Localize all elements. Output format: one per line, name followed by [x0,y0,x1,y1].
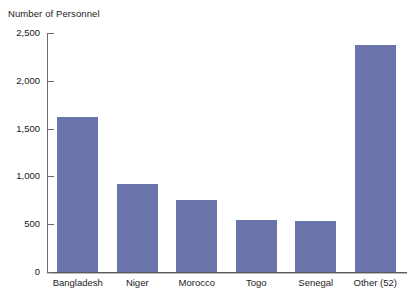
x-axis-category-label: Other (52) [346,277,406,288]
y-axis-tick [47,224,54,225]
y-axis-tick-label: 2,000 [16,76,40,86]
x-axis-category-label: Senegal [286,277,346,288]
bar [117,184,158,272]
y-axis-tick-label: 1,500 [16,124,40,134]
bar-chart-figure: Number of Personnel 05001,0001,5002,0002… [0,0,419,305]
y-axis-tick [47,272,54,273]
y-axis-tick [47,176,54,177]
bar [295,221,336,272]
y-axis-tick-label: 2,500 [16,28,40,38]
bar [176,200,217,272]
x-axis-category-label: Morocco [167,277,227,288]
bar [236,220,277,272]
x-axis-line [47,272,407,273]
y-axis-line [47,33,48,273]
x-axis-category-label: Niger [108,277,168,288]
y-axis-tick-label: 500 [24,219,40,229]
chart-title: Number of Personnel [8,8,100,20]
y-axis-tick-label: 0 [35,267,40,277]
y-axis-tick [47,129,54,130]
y-axis-tick [47,81,54,82]
y-axis-tick-label: 1,000 [16,171,40,181]
bar [57,117,98,272]
y-axis-tick [47,33,54,34]
bar [355,45,396,272]
x-axis-category-label: Togo [227,277,287,288]
x-axis-category-label: Bangladesh [48,277,108,288]
